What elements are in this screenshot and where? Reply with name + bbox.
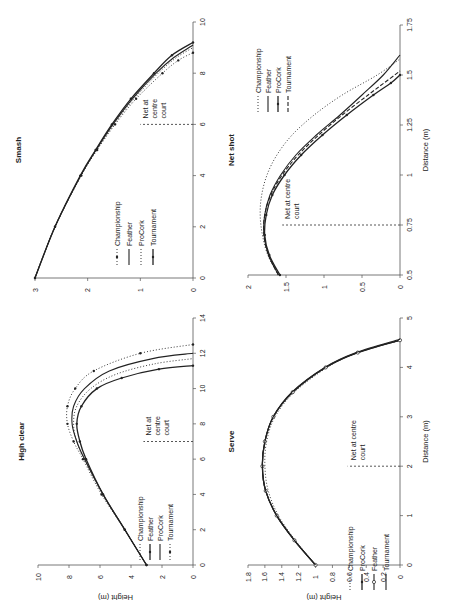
x-tick-label: 0	[199, 563, 206, 567]
marker-dot	[279, 274, 281, 276]
legend-label: Feather	[126, 221, 133, 246]
legend-marker	[277, 103, 279, 105]
x-tick-label: 6	[199, 122, 206, 126]
panel-serve: 01234500.20.40.60.811.21.41.61.8ServeDis…	[227, 316, 430, 602]
marker-dot	[54, 226, 56, 228]
legend-label: Championship	[137, 496, 145, 541]
marker-dot	[111, 123, 113, 125]
series-championship	[265, 340, 400, 565]
marker-dot	[80, 405, 82, 407]
net-label: court	[163, 420, 170, 436]
marker-dot	[76, 423, 78, 425]
series-tournament	[67, 345, 193, 566]
net-label: court	[160, 103, 167, 119]
legend-label: Feather	[265, 68, 272, 93]
x-tick-label: 4	[199, 174, 206, 178]
marker-dot	[82, 458, 84, 460]
marker-dot	[94, 149, 96, 151]
panel-title: Serve	[227, 430, 236, 452]
legend-marker	[372, 580, 375, 583]
x-tick-label: 2	[199, 225, 206, 229]
y-tick-label: 0.4	[363, 572, 370, 582]
marker-dot	[192, 52, 194, 54]
y-tick-label: 0	[190, 575, 197, 579]
net-label: Net at centre	[284, 179, 291, 219]
y-tick-label: 1	[312, 575, 319, 579]
marker-dot	[145, 564, 147, 566]
y-tick-label: 2	[84, 288, 91, 292]
x-tick-label: 6	[199, 457, 206, 461]
marker-dot	[372, 94, 374, 96]
net-label: centre	[151, 99, 158, 119]
panel-title: Net shot	[227, 134, 236, 166]
y-tick-label: 0	[397, 575, 404, 579]
y-tick-label: 0.6	[346, 572, 353, 582]
marker-dot	[79, 174, 81, 176]
legend-marker	[149, 551, 151, 553]
y-tick-label: 6	[97, 575, 104, 579]
legend-marker	[152, 256, 154, 258]
net-label: Net at	[142, 100, 149, 119]
marker-dot	[399, 74, 401, 76]
y-axis-label: Height (m)	[97, 593, 133, 602]
legend-label: Tournament	[150, 209, 157, 246]
y-tick-label: 0	[397, 285, 404, 289]
marker-dot	[93, 370, 95, 372]
marker-dot	[192, 41, 194, 43]
y-tick-label: 1	[137, 288, 144, 292]
x-tick-label: 0	[406, 563, 413, 567]
x-tick-label: 1.25	[406, 118, 413, 132]
marker-dot	[321, 134, 323, 136]
x-tick-label: 10	[199, 385, 206, 393]
marker-dot	[161, 72, 163, 74]
legend-label: Tournament	[383, 534, 390, 571]
net-label: court	[359, 445, 366, 461]
x-tick-label: 14	[199, 314, 206, 322]
y-tick-label: 1	[321, 285, 328, 289]
y-tick-label: 1.8	[245, 572, 252, 582]
panel-title: Smash	[14, 137, 23, 163]
marker-dot	[79, 440, 81, 442]
legend-label: Tournament	[285, 56, 292, 93]
marker-dot	[96, 387, 98, 389]
marker-dot	[130, 98, 132, 100]
x-tick-label: 10	[199, 18, 206, 26]
marker-dot	[100, 493, 102, 495]
marker-dot	[192, 343, 194, 345]
x-tick-label: 0.5	[406, 270, 413, 280]
y-tick-label: 1.4	[278, 572, 285, 582]
legend-label: Tournament	[167, 504, 174, 541]
y-tick-label: 4	[128, 575, 135, 579]
marker-dot	[153, 72, 155, 74]
x-tick-label: 12	[199, 349, 206, 357]
series-procork	[262, 340, 400, 565]
y-tick-label: 1.5	[283, 282, 290, 292]
x-tick-label: 8	[199, 71, 206, 75]
marker-dot	[346, 114, 348, 116]
x-tick-label: 0	[199, 276, 206, 280]
x-tick-label: 4	[406, 365, 413, 369]
y-tick-label: 0.5	[359, 282, 366, 292]
x-tick-label: 8	[199, 422, 206, 426]
legend-label: Championship	[114, 201, 122, 246]
panel-high-clear: 024681012140246810High clearHeight (m)Ne…	[17, 314, 206, 602]
y-tick-label: 10	[35, 573, 42, 581]
marker-dot	[177, 59, 179, 61]
x-tick-label: 5	[406, 316, 413, 320]
net-label: Net at centre	[350, 420, 357, 460]
x-tick-label: 2	[406, 464, 413, 468]
x-axis-label: Distance (m)	[421, 128, 430, 171]
x-tick-label: 2	[199, 528, 206, 532]
marker-dot	[390, 82, 392, 84]
series-tournament	[262, 339, 400, 565]
marker-dot	[171, 54, 173, 56]
marker-dot	[34, 277, 36, 279]
series-championship	[74, 359, 193, 565]
legend-label: ProCork	[157, 515, 164, 541]
x-tick-label: 1.75	[406, 18, 413, 32]
y-tick-label: 3	[32, 288, 39, 292]
marker-dot	[192, 364, 194, 366]
series-feather	[262, 340, 400, 565]
marker-dot	[74, 387, 76, 389]
net-label: court	[293, 203, 300, 219]
